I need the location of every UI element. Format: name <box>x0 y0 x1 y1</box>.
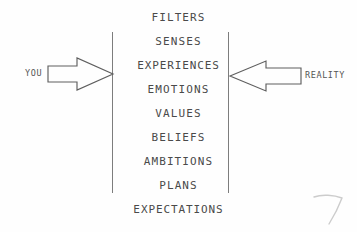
filter-label-beliefs: BELIEFS <box>0 132 357 143</box>
filter-label-plans: PLANS <box>0 180 357 191</box>
you-arrow-icon <box>47 57 115 91</box>
reality-label: REALITY <box>305 71 345 80</box>
reality-arrow-icon <box>229 60 303 92</box>
filter-label-values: VALUES <box>0 108 357 119</box>
you-label: YOU <box>25 69 42 78</box>
stray-pencil-mark <box>312 192 348 232</box>
filter-label-ambitions: AMBITIONS <box>0 156 357 167</box>
filter-label-expectations: EXPECTATIONS <box>0 204 357 215</box>
filter-label-filters: FILTERS <box>0 12 357 23</box>
perception-filters-diagram: FILTERS SENSES EXPERIENCES EMOTIONS VALU… <box>0 0 357 232</box>
right-barrier-line <box>228 32 229 193</box>
filter-label-senses: SENSES <box>0 36 357 47</box>
